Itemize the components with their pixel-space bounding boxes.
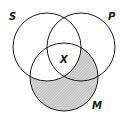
venn-diagram: S P M X [0, 0, 128, 115]
label-m: M [92, 100, 102, 111]
label-s: S [9, 11, 16, 22]
label-p: P [108, 11, 116, 22]
label-x-mark: X [59, 54, 69, 65]
